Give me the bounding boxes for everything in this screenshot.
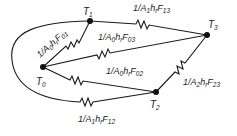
- label-r01: 1/A0hrF01: [35, 27, 70, 60]
- node-t3: [204, 32, 210, 38]
- label-t1: T1: [83, 6, 93, 18]
- node-t0: [40, 64, 46, 70]
- radiation-network-diagram: T0 T1 T2 T3 1/A0hrF01 1/A0hrF03 1/A0hrF0…: [0, 0, 237, 136]
- label-r12: 1/A1hrF12: [78, 114, 115, 125]
- node-t2: [153, 89, 159, 95]
- label-t0: T0: [36, 76, 46, 88]
- label-r02: 1/A0hrF02: [106, 66, 143, 77]
- label-t3: T3: [208, 19, 218, 31]
- node-t1: [87, 18, 93, 24]
- label-t2: T2: [150, 99, 160, 111]
- label-r03: 1/A0hrF03: [98, 32, 135, 43]
- label-r13: 1/A1hrF13: [133, 3, 170, 14]
- label-r23: 1/A2hrF23: [183, 77, 220, 88]
